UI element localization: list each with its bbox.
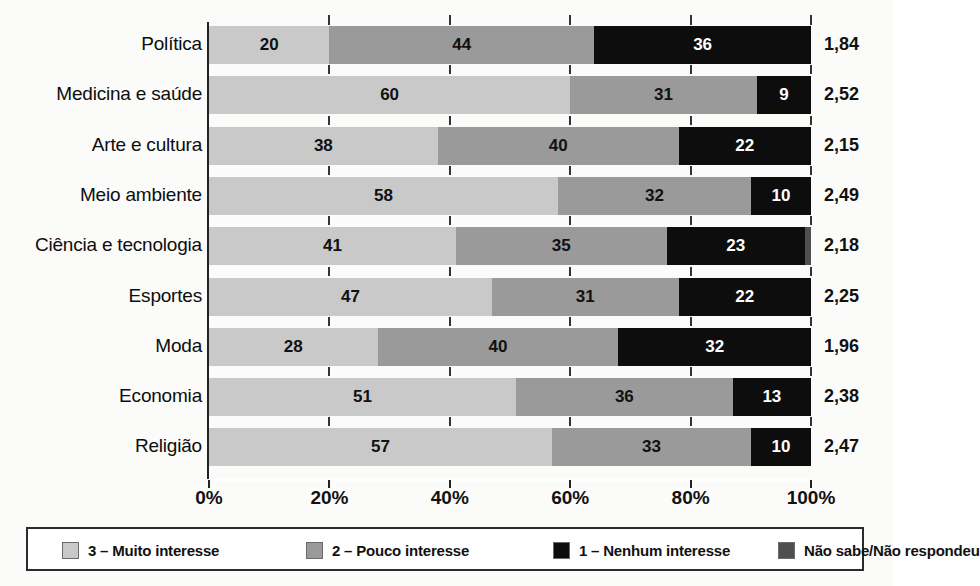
x-axis-tick-label: 40% [405, 487, 495, 509]
bar-segment: 40 [438, 127, 679, 165]
x-tick-mark [690, 417, 692, 426]
category-label: Meio ambiente [0, 184, 202, 206]
x-tick-mark [569, 367, 571, 376]
x-tick-mark [328, 317, 330, 326]
stacked-bar-row: 513613 [209, 378, 811, 416]
x-tick-mark [449, 116, 451, 125]
bar-segment: 47 [209, 278, 492, 316]
legend-swatch-icon [62, 542, 79, 559]
category-label: Moda [0, 335, 202, 357]
category-label: Religião [0, 435, 202, 457]
legend-item[interactable]: 1 – Nenhum interesse [553, 538, 730, 562]
x-tick-mark [449, 317, 451, 326]
bar-value-label: 41 [209, 236, 456, 256]
bar-value-label: 28 [209, 337, 378, 357]
bar-segment: 57 [209, 428, 552, 466]
x-tick-mark [328, 65, 330, 74]
bar-segment: 40 [378, 328, 619, 366]
bar-segment: 23 [667, 227, 805, 265]
bar-segment: 51 [209, 378, 516, 416]
x-tick-mark [449, 367, 451, 376]
bar-segment: 28 [209, 328, 378, 366]
bar-segment: 38 [209, 127, 438, 165]
bar-value-label: 9 [757, 85, 811, 105]
bar-value-label: 60 [209, 85, 570, 105]
x-tick-mark [569, 417, 571, 426]
x-tick-mark [569, 116, 571, 125]
plot-area: Política2044361,84Medicina e saúde603192… [0, 0, 893, 512]
stacked-bar-row: 413523 [209, 227, 811, 265]
x-tick-mark [449, 15, 451, 25]
x-tick-mark [328, 166, 330, 175]
bar-segment: 10 [751, 428, 811, 466]
stacked-bar-row: 384022 [209, 127, 811, 165]
x-tick-mark [328, 267, 330, 276]
bar-segment: 36 [516, 378, 733, 416]
legend-item[interactable]: 2 – Pouco interesse [306, 538, 469, 562]
category-label: Economia [0, 385, 202, 407]
row-mean-value: 2,52 [824, 84, 884, 105]
bar-value-label: 22 [679, 136, 811, 156]
x-axis-tick-label: 60% [525, 487, 615, 509]
category-label: Ciência e tecnologia [0, 234, 202, 256]
bar-segment: 31 [492, 278, 679, 316]
x-tick-mark [449, 216, 451, 225]
stacked-bar-row: 284032 [209, 328, 811, 366]
x-tick-mark [328, 216, 330, 225]
stacked-bar-row: 204436 [209, 26, 811, 64]
bar-value-label: 20 [209, 35, 329, 55]
bar-segment: 41 [209, 227, 456, 265]
row-mean-value: 2,49 [824, 185, 884, 206]
bar-segment: 32 [558, 177, 751, 215]
category-label: Medicina e saúde [0, 83, 202, 105]
bar-value-label: 23 [667, 236, 805, 256]
x-tick-mark [690, 166, 692, 175]
x-tick-mark [810, 65, 812, 74]
bar-value-label: 35 [456, 236, 667, 256]
x-tick-mark [690, 317, 692, 326]
x-tick-mark [569, 267, 571, 276]
bar-value-label: 38 [209, 136, 438, 156]
x-axis-tick-label: 100% [766, 487, 856, 509]
legend-swatch-icon [778, 542, 795, 559]
legend-item[interactable]: Não sabe/Não respondeu [778, 538, 980, 562]
bar-value-label: 36 [594, 35, 811, 55]
x-tick-mark [690, 65, 692, 74]
category-label: Arte e cultura [0, 134, 202, 156]
x-tick-mark [569, 166, 571, 175]
x-tick-mark [328, 15, 330, 25]
chart-legend: 3 – Muito interesse2 – Pouco interesse1 … [26, 527, 864, 571]
legend-label: 3 – Muito interesse [88, 542, 219, 559]
x-axis-tick-label: 80% [646, 487, 736, 509]
bar-value-label: 36 [516, 387, 733, 407]
bar-value-label: 51 [209, 387, 516, 407]
bar-segment: 31 [570, 76, 757, 114]
bar-value-label: 47 [209, 287, 492, 307]
bar-segment: 20 [209, 26, 329, 64]
x-tick-mark [690, 15, 692, 25]
bar-segment: 10 [751, 177, 811, 215]
bar-value-label: 33 [552, 437, 751, 457]
row-mean-value: 1,84 [824, 34, 884, 55]
x-tick-mark [449, 417, 451, 426]
bar-value-label: 31 [570, 85, 757, 105]
bar-value-label: 40 [378, 337, 619, 357]
bar-segment: 32 [618, 328, 811, 366]
legend-item[interactable]: 3 – Muito interesse [62, 538, 219, 562]
category-label: Esportes [0, 285, 202, 307]
row-mean-value: 2,25 [824, 286, 884, 307]
legend-swatch-icon [306, 542, 323, 559]
bar-segment: 35 [456, 227, 667, 265]
bar-value-label: 13 [733, 387, 811, 407]
row-mean-value: 1,96 [824, 336, 884, 357]
bar-value-label: 22 [679, 287, 811, 307]
legend-swatch-icon [553, 542, 570, 559]
stacked-bar-row: 60319 [209, 76, 811, 114]
bar-segment: 36 [594, 26, 811, 64]
x-tick-mark [328, 116, 330, 125]
x-axis-tick-label: 0% [164, 487, 254, 509]
bar-segment: 33 [552, 428, 751, 466]
x-tick-mark [690, 267, 692, 276]
legend-label: Não sabe/Não respondeu [804, 542, 980, 559]
